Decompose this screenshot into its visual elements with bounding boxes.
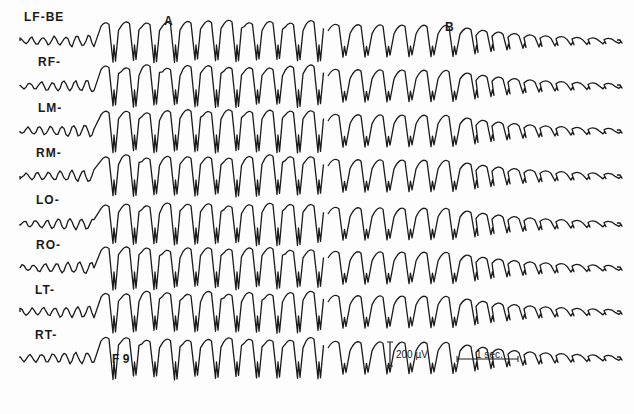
eeg-trace-line [328, 24, 622, 57]
eeg-trace-line [328, 341, 622, 374]
eeg-trace-line [20, 337, 324, 380]
channel-label-rm: RM- [36, 146, 62, 160]
channel-label-rt: RT- [35, 328, 57, 342]
segment-label-b: B [445, 20, 454, 34]
eeg-trace-line [20, 291, 324, 333]
channel-label-lf-be: LF-BE [24, 10, 64, 24]
eeg-trace-line [328, 251, 622, 284]
segment-label-a: A [164, 14, 173, 28]
eeg-trace-line [328, 114, 622, 147]
eeg-trace-line [20, 65, 324, 108]
eeg-trace-line [20, 247, 324, 290]
eeg-trace-line [20, 155, 324, 197]
eeg-trace-line [328, 295, 622, 328]
eeg-figure: LF-BE RF- LM- RM- LO- RO- LT- RT- A B F … [0, 0, 634, 414]
eeg-trace-line [328, 69, 622, 102]
eeg-trace-line [328, 207, 622, 240]
channel-label-lt: LT- [35, 283, 55, 297]
amplitude-calibration-label: 200 µV [396, 349, 428, 360]
eeg-trace-line [328, 159, 622, 192]
time-calibration-label: 1 sec. [476, 349, 503, 360]
channel-label-rf: RF- [38, 55, 61, 69]
eeg-trace-line [20, 110, 324, 153]
channel-label-lm: LM- [38, 101, 62, 115]
eeg-traces [0, 0, 634, 414]
channel-label-lo: LO- [36, 193, 60, 207]
eeg-trace-line [20, 203, 324, 246]
marker-label-f9: F 9 [112, 352, 129, 366]
channel-label-ro: RO- [36, 238, 61, 252]
